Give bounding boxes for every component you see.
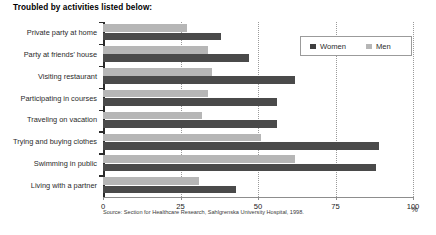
bar-men: [103, 68, 212, 76]
category-label: Participating in courses: [21, 95, 97, 102]
bar-men: [103, 155, 295, 163]
category-label: Living with a partner: [31, 182, 97, 189]
bar-row: Living with a partner: [103, 175, 413, 197]
chart-legend: Women Men: [300, 36, 412, 56]
legend-label-women: Women: [320, 42, 346, 51]
legend-swatch-women-icon: [310, 44, 316, 49]
bar-women: [103, 54, 249, 62]
category-label: Party at friends' house: [24, 51, 97, 58]
legend-item-women: Women: [310, 42, 346, 51]
x-tick-0: [103, 197, 104, 200]
gridline-100: [413, 22, 414, 197]
category-label: Trying and buying clothes: [13, 138, 97, 145]
bar-men: [103, 46, 208, 54]
x-tick-75: [336, 197, 337, 200]
bar-row: Traveling on vacation: [103, 110, 413, 132]
bar-men: [103, 112, 202, 120]
bar-men: [103, 24, 187, 32]
category-label: Swimming in public: [34, 160, 97, 167]
bar-row: Swimming in public: [103, 153, 413, 175]
bar-women: [103, 76, 295, 84]
bar-row: Participating in courses: [103, 88, 413, 110]
bar-women: [103, 98, 277, 106]
bar-men: [103, 90, 208, 98]
legend-item-men: Men: [366, 42, 391, 51]
source-note: Source: Section for Healthcare Research,…: [103, 209, 304, 215]
x-tick-25: [181, 197, 182, 200]
x-axis-unit-label: %: [411, 205, 418, 214]
bar-women: [103, 186, 236, 194]
bar-row: Visiting restaurant: [103, 66, 413, 88]
bar-women: [103, 164, 376, 172]
bar-women: [103, 33, 221, 41]
x-tick-100: [413, 197, 414, 200]
category-label: Visiting restaurant: [38, 73, 97, 80]
legend-swatch-men-icon: [366, 44, 372, 49]
x-tick-50: [258, 197, 259, 200]
category-label: Traveling on vacation: [27, 116, 97, 123]
legend-label-men: Men: [376, 42, 391, 51]
bar-men: [103, 177, 199, 185]
bar-women: [103, 120, 277, 128]
category-label: Private party at home: [27, 29, 97, 36]
chart-title: Troubled by activities listed below:: [13, 3, 152, 12]
bar-row: Trying and buying clothes: [103, 131, 413, 153]
bar-men: [103, 134, 261, 142]
bar-women: [103, 142, 379, 150]
x-tick-label-75: 75: [331, 202, 339, 211]
